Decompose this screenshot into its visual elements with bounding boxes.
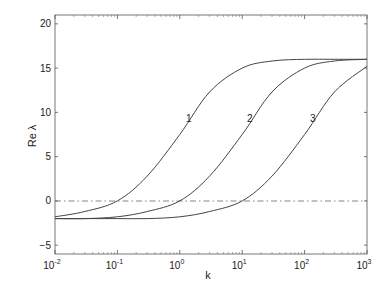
x-tick-label: 100 (169, 258, 184, 271)
chart: −505101520 10-210-1100101102103 1 2 3 k … (0, 0, 389, 292)
y-tick-label: 5 (45, 151, 51, 162)
x-tick-label: 102 (294, 258, 309, 271)
y-axis-label: Re λ (26, 124, 38, 147)
x-tick-label: 10-1 (106, 258, 123, 271)
curve-label-1: 1 (186, 113, 192, 124)
x-tick-label: 10-2 (43, 258, 60, 271)
y-tick-label: 0 (45, 195, 51, 206)
y-tick-label: 10 (40, 107, 52, 118)
x-tick-label: 103 (356, 258, 371, 271)
x-axis-label: k (205, 269, 211, 281)
curve-label-2: 2 (247, 113, 253, 124)
y-tick-label: 20 (40, 18, 52, 29)
x-tick-label: 101 (232, 258, 247, 271)
curve-label-3: 3 (310, 113, 316, 124)
y-tick-label: 15 (40, 63, 52, 74)
y-tick-label: −5 (40, 240, 52, 251)
